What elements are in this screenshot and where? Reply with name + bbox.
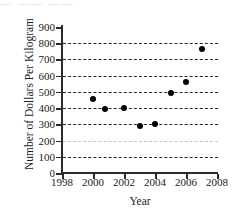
data-point (199, 46, 205, 52)
y-tick-label-600: 600 (26, 71, 55, 81)
gridline-600 (63, 76, 218, 77)
y-tick-label-400: 400 (26, 103, 55, 113)
y-tick-mark-300 (56, 124, 62, 126)
y-tick-mark-500 (56, 92, 62, 94)
x-tick-mark-1998 (62, 174, 64, 179)
y-tick-mark-600 (56, 76, 62, 78)
x-axis-tick-labels: 199820002002200420062008 (0, 176, 239, 190)
data-point (152, 121, 158, 127)
y-tick-label-700: 700 (26, 54, 55, 64)
gridline-800 (63, 43, 218, 44)
x-tick-mark-2000 (93, 174, 95, 179)
gridline-200 (63, 141, 218, 142)
y-tick-label-800: 800 (26, 38, 55, 48)
x-tick-mark-2004 (155, 174, 157, 179)
scatter-chart-figure: — —— —— Number of Dollars Per Kilogram Y… (0, 0, 239, 214)
x-axis-title: Year (62, 194, 218, 208)
gridline-500 (63, 92, 218, 93)
data-point (168, 90, 174, 96)
y-tick-label-100: 100 (26, 152, 55, 162)
gridline-100 (63, 157, 218, 158)
gridline-400 (63, 108, 218, 109)
gridline-700 (63, 59, 218, 60)
y-tick-mark-800 (56, 43, 62, 45)
y-tick-mark-900 (56, 27, 62, 29)
data-point (137, 123, 143, 129)
data-point (102, 106, 108, 112)
y-tick-label-900: 900 (26, 22, 55, 32)
x-tick-mark-2006 (186, 174, 188, 179)
y-tick-label-200: 200 (26, 136, 55, 146)
y-tick-mark-200 (56, 141, 62, 143)
y-tick-mark-700 (56, 59, 62, 61)
y-tick-label-500: 500 (26, 87, 55, 97)
x-tick-mark-2008 (217, 174, 219, 179)
x-axis-line (61, 172, 218, 174)
y-axis-tick-labels: 0100200300400500600700800900 (26, 0, 55, 180)
y-tick-label-300: 300 (26, 119, 55, 129)
y-axis-line (61, 25, 63, 174)
x-tick-mark-2002 (124, 174, 126, 179)
data-point (183, 79, 189, 85)
data-point (90, 96, 96, 102)
y-tick-mark-400 (56, 108, 62, 110)
data-point (121, 105, 127, 111)
y-tick-mark-100 (56, 157, 62, 159)
